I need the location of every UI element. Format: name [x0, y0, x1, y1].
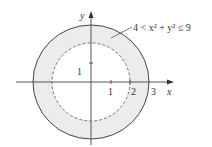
x-tick-label-3: 3 — [151, 86, 156, 97]
x-tick-label-2: 2 — [131, 86, 136, 97]
x-axis-label: x — [166, 86, 172, 97]
annulus-diagram: x y 1 2 3 1 4 < x² + y² ≤ 9 — [0, 0, 212, 147]
x-axis-arrow-icon — [167, 80, 174, 85]
x-tick-label-1: 1 — [108, 86, 113, 97]
region-label: 4 < x² + y² ≤ 9 — [133, 22, 191, 33]
y-tick-label-1: 1 — [77, 66, 82, 77]
y-axis-label: y — [79, 10, 85, 21]
y-axis-arrow-icon — [89, 11, 94, 18]
